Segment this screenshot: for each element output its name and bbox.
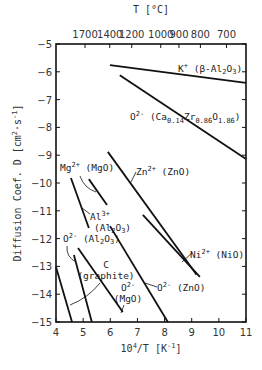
arrow-zn (131, 172, 136, 182)
label-zn-zno: Zn2+ (ZnO) (136, 165, 190, 177)
arrow-mg (80, 176, 96, 192)
y-tick-label: −14 (31, 289, 52, 300)
x-tick-label: 9 (189, 327, 195, 338)
y-tick-label: −11 (31, 206, 52, 217)
label-ni-nio: Ni2+ (NiO) (190, 248, 244, 260)
top-tick-label: 800 (191, 29, 210, 40)
y-tick-label: −13 (31, 261, 52, 272)
series-line (71, 178, 89, 228)
label-o-mgo-ion: O2- (121, 281, 135, 293)
x-tick-label: 4 (53, 327, 59, 338)
x-tick-label: 7 (134, 327, 140, 338)
label-o-cazro: O2- (Ca0.14Zr0.86O1.86) (130, 110, 241, 125)
top-tick-label: 1700 (72, 29, 97, 40)
series-lines (56, 65, 246, 322)
x-tick-label: 10 (212, 327, 225, 338)
x-tick-label: 11 (240, 327, 253, 338)
y-tick-label: −6 (37, 67, 52, 78)
top-tick-label: 700 (217, 29, 236, 40)
label-al-ion: Al3+ (90, 210, 110, 222)
label-c-line2: (graphite) (77, 270, 134, 281)
top-axis-title: T [°C] (133, 4, 169, 15)
label-o-mgo-host: (MgO) (114, 293, 143, 304)
label-c-line1: C (103, 259, 109, 270)
y-axis-title: Diffusion Coef. D [cm2·s-1] (11, 104, 23, 261)
x-tick-label: 8 (161, 327, 167, 338)
chart: 4567891011−5−6−7−8−9−10−11−12−13−14−1517… (0, 0, 262, 370)
label-mg-mgo: Mg2+ (MgO) (60, 161, 114, 173)
y-tick-label: −15 (31, 317, 52, 328)
y-tick-label: −5 (37, 39, 52, 50)
y-tick-label: −9 (37, 150, 52, 161)
series-line (89, 179, 107, 205)
x-axis-title: 104/T [K-1] (121, 342, 182, 354)
top-tick-label: 1200 (119, 29, 144, 40)
x-tick-label: 6 (107, 327, 113, 338)
x-tick-label: 5 (80, 327, 86, 338)
y-tick-label: −12 (31, 234, 52, 245)
y-tick-label: −8 (37, 122, 52, 133)
label-o-zno: O2- (ZnO) (157, 281, 206, 293)
top-tick-label: 900 (169, 29, 188, 40)
label-k-beta-alumina: K+ (β-Al2O3) (178, 62, 242, 76)
y-tick-label: −7 (37, 95, 52, 106)
series-line (143, 215, 200, 277)
y-tick-label: −10 (31, 178, 52, 189)
